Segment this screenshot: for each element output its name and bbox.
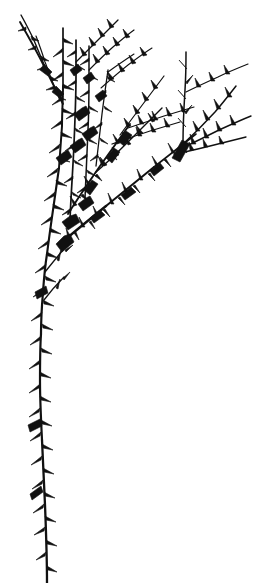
- plant-line-drawing: grass-like plant with branching panicle …: [0, 0, 256, 583]
- illustration-plate: grass-like plant with branching panicle …: [0, 0, 256, 583]
